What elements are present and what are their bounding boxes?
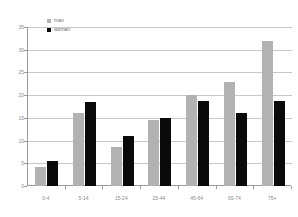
bar-man-15-24 xyxy=(111,147,122,186)
bar-group xyxy=(28,27,66,186)
x-axis-tick-label: 5-14 xyxy=(65,196,103,201)
bar-chart: 05101520253035 0-45-1415-2425-4445-6465-… xyxy=(0,0,298,217)
bar-woman-65-74 xyxy=(236,113,247,186)
bar-man-45-64 xyxy=(186,95,197,186)
bar-man-75+ xyxy=(262,41,273,186)
y-axis-tick-label: 5 xyxy=(4,161,24,166)
y-axis-tick-label: 15 xyxy=(4,116,24,121)
x-axis-tick-mark xyxy=(140,186,141,189)
legend-label-woman: woman xyxy=(54,27,70,32)
x-axis-tick-label: 25-44 xyxy=(140,196,178,201)
x-axis-tick-mark xyxy=(291,186,292,189)
legend: man woman xyxy=(47,16,70,34)
y-axis-tick-label: 10 xyxy=(4,139,24,144)
bar-woman-45-64 xyxy=(198,101,209,186)
legend-swatch-woman-icon xyxy=(47,28,51,32)
x-axis-tick-label: 15-24 xyxy=(102,196,140,201)
x-axis-tick-label: 45-64 xyxy=(178,196,216,201)
bar-series-container xyxy=(28,27,291,186)
x-axis-tick-mark xyxy=(102,186,103,189)
legend-item-man: man xyxy=(47,16,70,25)
bar-group xyxy=(103,27,141,186)
legend-item-woman: woman xyxy=(47,25,70,34)
x-axis-tick-label: 65-74 xyxy=(216,196,254,201)
y-axis-tick-label: 20 xyxy=(4,93,24,98)
x-axis-tick-mark xyxy=(65,186,66,189)
y-axis-tick-label: 0 xyxy=(4,184,24,189)
x-axis-tick-label: 0-4 xyxy=(27,196,65,201)
bar-man-5-14 xyxy=(73,113,84,186)
bar-group xyxy=(141,27,179,186)
legend-swatch-man-icon xyxy=(47,19,51,23)
x-axis-tick-label: 75+ xyxy=(253,196,291,201)
x-axis-tick-mark xyxy=(253,186,254,189)
y-axis-tick-mark xyxy=(24,186,27,187)
bar-woman-25-44 xyxy=(160,118,171,186)
bar-woman-5-14 xyxy=(85,102,96,186)
bar-group xyxy=(66,27,104,186)
bar-group xyxy=(217,27,255,186)
bar-group xyxy=(254,27,292,186)
y-axis-tick-label: 30 xyxy=(4,48,24,53)
x-axis-tick-mark xyxy=(216,186,217,189)
bar-woman-0-4 xyxy=(47,161,58,186)
legend-label-man: man xyxy=(54,18,64,23)
bar-woman-75+ xyxy=(274,101,285,186)
bar-man-25-44 xyxy=(148,120,159,186)
bar-man-65-74 xyxy=(224,82,235,186)
x-axis-tick-mark xyxy=(178,186,179,189)
bar-man-0-4 xyxy=(35,167,46,186)
bar-group xyxy=(179,27,217,186)
bar-woman-15-24 xyxy=(123,136,134,186)
y-axis-tick-label: 25 xyxy=(4,70,24,75)
y-axis-tick-label: 35 xyxy=(4,25,24,30)
